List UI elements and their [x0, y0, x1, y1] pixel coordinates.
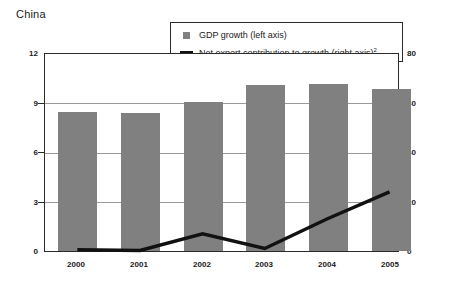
y-axis-right-tick-60: 60 — [407, 100, 441, 108]
chart-title: China — [16, 8, 46, 20]
legend-square-swatch-icon — [183, 32, 190, 39]
y-axis-right-tick-0: 0 — [407, 248, 441, 256]
x-axis-tick-2005: 2005 — [360, 261, 420, 269]
plot-inner — [45, 54, 398, 251]
x-axis-tick-2001: 2001 — [109, 261, 169, 269]
legend-item-label: GDP growth (left axis) — [199, 31, 287, 40]
net-export-polyline — [77, 192, 389, 251]
y-axis-left-tick-12: 12 — [4, 50, 38, 58]
y-axis-right-tick-80: 80 — [407, 50, 441, 58]
x-axis-tick-2002: 2002 — [172, 261, 232, 269]
x-axis-tick-2003: 2003 — [234, 261, 294, 269]
y-axis-right-tick-20: 20 — [407, 199, 441, 207]
y-axis-left-tick-9: 9 — [4, 100, 38, 108]
y-axis-left-tick-0: 0 — [4, 248, 38, 256]
x-axis-tick-2004: 2004 — [297, 261, 357, 269]
y-axis-right-tick-40: 40 — [407, 149, 441, 157]
legend-item-gdp-growth: GDP growth (left axis) — [181, 27, 402, 44]
chart-container: China GDP growth (left axis) Net export … — [0, 0, 455, 293]
y-axis-left-tick-6: 6 — [4, 149, 38, 157]
y-axis-left-tick-3: 3 — [4, 199, 38, 207]
line-series-net-export — [45, 54, 398, 251]
plot-area — [44, 53, 399, 252]
x-axis-tick-2000: 2000 — [46, 261, 106, 269]
